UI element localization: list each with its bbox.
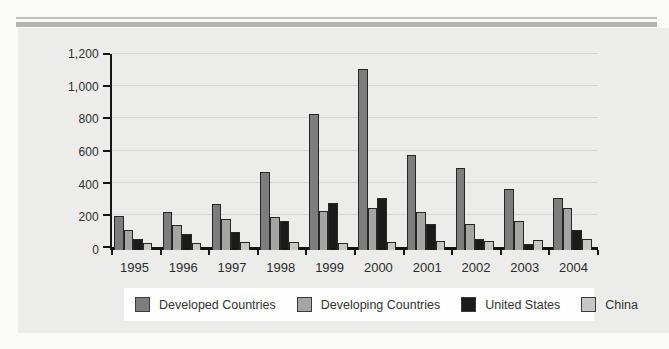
bar-united-states-2002: [475, 239, 485, 250]
y-tick-800: [103, 117, 110, 119]
x-label-1996: 1996: [159, 260, 208, 276]
bar-developed-countries-2000: [358, 69, 368, 250]
top-rule-thin: [16, 17, 657, 19]
x-label-1998: 1998: [256, 260, 305, 276]
x-tick: [208, 250, 210, 255]
page: { "decor": { "thin_rule_color": "#c1c1c0…: [0, 0, 669, 349]
bar-united-states-1997: [231, 232, 241, 250]
x-tick: [597, 250, 599, 255]
x-tick: [354, 250, 356, 255]
y-tick-label: 0: [92, 243, 99, 257]
bar-china-2001: [436, 241, 446, 250]
bar-developed-countries-2001: [407, 155, 417, 250]
year-group-2003: [500, 54, 549, 250]
bar-united-states-1996: [182, 234, 192, 250]
y-tick-0: [103, 246, 110, 248]
bar-developing-countries-2003: [514, 221, 524, 250]
year-group-2002: [452, 54, 501, 250]
bar-china-2003: [533, 240, 543, 250]
x-label-1995: 1995: [110, 260, 159, 276]
y-tick-label: 1,000: [68, 80, 99, 94]
y-axis-labels: 02004006008001,0001,200: [18, 54, 99, 250]
y-tick-label: 400: [78, 178, 99, 192]
legend-label: United States: [485, 298, 560, 312]
legend-item-developed-countries: Developed Countries: [135, 297, 276, 312]
top-rule-thick: [16, 22, 657, 27]
x-label-2004: 2004: [549, 260, 598, 276]
bar-united-states-2003: [524, 244, 534, 250]
legend-swatch: [297, 297, 312, 312]
bar-china-1996: [192, 243, 202, 250]
bar-united-states-2001: [426, 224, 436, 250]
x-tick: [548, 250, 550, 255]
year-group-2001: [403, 54, 452, 250]
bar-developed-countries-1996: [163, 212, 173, 250]
bar-developing-countries-2001: [416, 212, 426, 250]
x-label-2000: 2000: [354, 260, 403, 276]
year-group-1998: [256, 54, 305, 250]
x-label-2002: 2002: [452, 260, 501, 276]
bar-developing-countries-1999: [319, 211, 329, 250]
bar-developed-countries-1995: [114, 216, 124, 250]
y-tick-400: [103, 182, 110, 184]
year-group-1999: [305, 54, 354, 250]
y-tick-label: 800: [78, 112, 99, 126]
bar-developed-countries-1997: [212, 204, 222, 250]
bar-united-states-2000: [377, 198, 387, 250]
bar-developing-countries-2002: [465, 224, 475, 250]
legend: Developed CountriesDeveloping CountriesU…: [124, 288, 594, 321]
bar-developing-countries-2004: [563, 208, 573, 250]
x-tick: [451, 250, 453, 255]
y-tick-1000: [103, 85, 110, 87]
x-label-2001: 2001: [403, 260, 452, 276]
bar-china-2000: [387, 242, 397, 250]
legend-swatch: [135, 297, 150, 312]
x-tick: [160, 250, 162, 255]
legend-label: Developing Countries: [321, 298, 441, 312]
year-group-1995: [110, 54, 159, 250]
bar-china-2004: [582, 239, 592, 250]
bar-developed-countries-1999: [309, 114, 319, 250]
bar-developing-countries-1996: [172, 225, 182, 250]
chart-panel: 02004006008001,0001,200 1995199619971998…: [18, 28, 669, 333]
bar-china-1995: [143, 243, 153, 250]
y-tick-label: 200: [78, 210, 99, 224]
x-tick: [257, 250, 259, 255]
x-tick: [305, 250, 307, 255]
bar-china-1998: [289, 242, 299, 250]
bar-developed-countries-1998: [260, 172, 270, 250]
legend-label: China: [605, 298, 638, 312]
year-group-2000: [354, 54, 403, 250]
y-tick-label: 1,200: [68, 47, 99, 61]
bar-developing-countries-2000: [368, 208, 378, 250]
bar-china-1997: [240, 242, 250, 250]
year-group-2004: [549, 54, 598, 250]
y-tick-600: [103, 150, 110, 152]
bar-china-1999: [338, 243, 348, 250]
bar-developing-countries-1995: [124, 230, 134, 250]
legend-item-china: China: [581, 297, 638, 312]
x-label-1999: 1999: [305, 260, 354, 276]
legend-label: Developed Countries: [159, 298, 276, 312]
bar-united-states-1999: [328, 203, 338, 250]
bar-united-states-1998: [280, 221, 290, 250]
y-tick-200: [103, 214, 110, 216]
year-group-1997: [208, 54, 257, 250]
bar-united-states-1995: [133, 239, 143, 250]
legend-item-united-states: United States: [461, 297, 560, 312]
bar-developed-countries-2004: [553, 198, 563, 250]
bar-developing-countries-1997: [221, 219, 231, 250]
bar-developed-countries-2002: [456, 168, 466, 250]
x-axis-labels: 1995199619971998199920002001200220032004: [110, 260, 598, 276]
y-tick-1200: [103, 53, 110, 55]
legend-swatch: [581, 297, 596, 312]
legend-item-developing-countries: Developing Countries: [297, 297, 441, 312]
bar-groups: [110, 54, 598, 250]
x-tick: [403, 250, 405, 255]
x-tick: [111, 250, 113, 255]
year-group-1996: [159, 54, 208, 250]
x-label-1997: 1997: [208, 260, 257, 276]
x-label-2003: 2003: [500, 260, 549, 276]
bar-china-2002: [484, 241, 494, 250]
y-tick-label: 600: [78, 145, 99, 159]
